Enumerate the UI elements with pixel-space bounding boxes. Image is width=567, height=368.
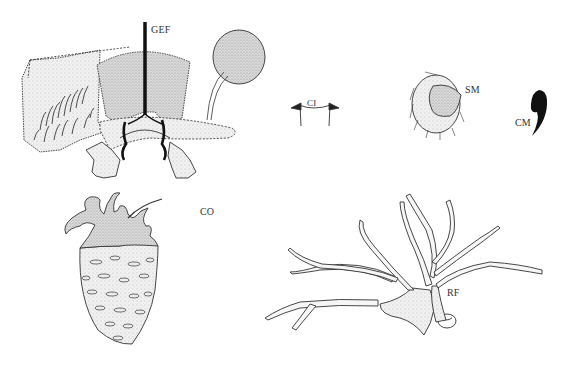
label-rf: RF — [447, 287, 460, 298]
co-figure — [65, 193, 162, 344]
illustration-plate — [0, 0, 567, 368]
label-sm: SM — [465, 84, 480, 95]
rf-figure — [265, 194, 542, 335]
label-cm: CM — [515, 117, 531, 128]
label-gef: GEF — [151, 24, 171, 35]
cm-figure — [531, 90, 547, 136]
label-ci: CI — [307, 98, 316, 108]
sm-figure — [410, 72, 464, 140]
label-co: CO — [200, 206, 214, 217]
gef-figure — [22, 22, 265, 178]
